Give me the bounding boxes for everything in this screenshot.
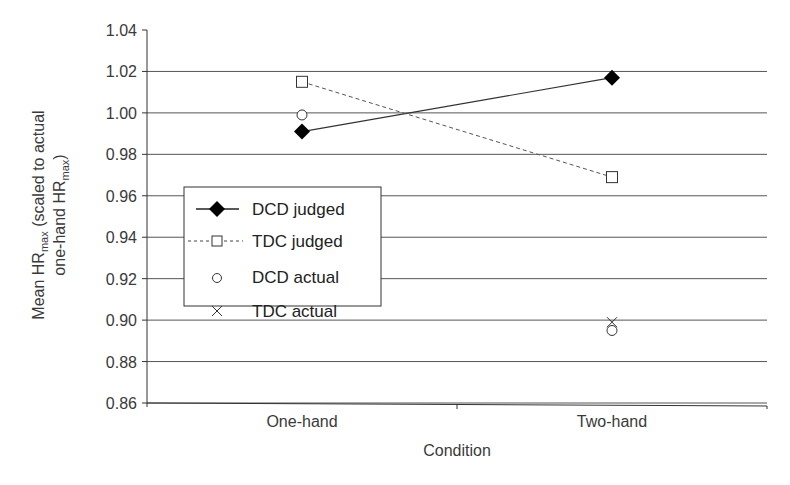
y-tick-label: 0.90 [106,312,137,329]
y-tick-label: 0.88 [106,354,137,371]
y-tick-label: 0.92 [106,271,137,288]
open-square-icon [212,236,222,246]
y-axis-tick-labels: 1.041.021.000.980.960.940.920.900.880.86 [106,22,137,412]
y-tick-label: 0.98 [106,146,137,163]
open-square-icon [297,76,308,87]
svg-text:TDC judged: TDC judged [252,232,343,251]
svg-text:DCD judged: DCD judged [252,200,345,219]
x-axis-title: Condition [423,442,491,459]
open-circle-icon [607,325,617,335]
filled-diamond-icon [294,124,310,140]
y-axis-title-line1: Mean HRmax (scaled to actual [30,110,50,319]
series-line [302,78,612,132]
y-axis-title-line2: one-hand HRmax) [51,154,71,275]
y-axis-title: Mean HRmax (scaled to actual one-hand HR… [30,110,71,319]
x-axis-tick-labels: One-handTwo-hand [266,413,647,430]
x-tick-label: One-hand [266,413,337,430]
y-tick-label: 0.94 [106,229,137,246]
y-tick-label: 0.96 [106,188,137,205]
line-chart: 1.041.021.000.980.960.940.920.900.880.86… [0,0,790,485]
x-mark-icon [212,306,222,316]
series-line [302,82,612,177]
y-tick-label: 0.86 [106,395,137,412]
svg-text:DCD actual: DCD actual [252,268,339,287]
svg-text:TDC actual: TDC actual [252,302,337,321]
y-tick-label: 1.02 [106,63,137,80]
open-circle-icon [213,274,222,283]
y-tick-label: 1.00 [106,105,137,122]
y-tick-label: 1.04 [106,22,137,39]
x-tick-label: Two-hand [577,413,647,430]
open-circle-icon [297,110,307,120]
filled-diamond-icon [604,70,620,86]
legend: DCD judged TDC judged DCD actual TDC act… [184,187,381,321]
open-square-icon [607,172,618,183]
